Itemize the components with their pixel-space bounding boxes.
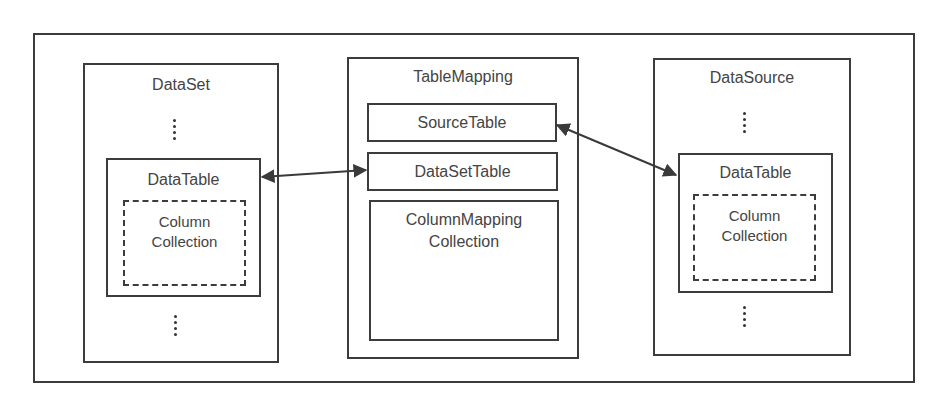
connection-arrows [0, 0, 947, 407]
arrow-sourcetable-to-datasource [557, 125, 676, 175]
arrow-dataset-to-tablemapping [262, 170, 366, 177]
